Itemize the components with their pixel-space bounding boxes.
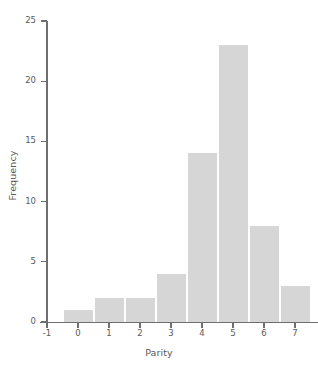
y-tick-mark [41, 81, 47, 82]
x-tick-label: 6 [252, 328, 276, 338]
x-tick-label: 4 [190, 328, 214, 338]
y-axis-line [46, 21, 47, 322]
histogram-chart: Histogram of Parity 0510152025 -10123456… [0, 0, 318, 366]
y-axis-title: Frequency [7, 131, 18, 221]
y-tick-mark [41, 141, 47, 142]
histogram-bar [156, 274, 187, 322]
y-tick-label: 25 [10, 16, 36, 25]
histogram-bar [125, 298, 156, 322]
x-axis-title: Parity [0, 347, 318, 358]
histogram-bar [94, 298, 125, 322]
histogram-bar [249, 226, 280, 322]
y-tick-mark [41, 261, 47, 262]
histogram-bar [187, 153, 218, 322]
y-tick-label: 20 [10, 76, 36, 85]
histogram-bar [218, 45, 249, 322]
y-tick-label: 0 [10, 317, 36, 326]
x-axis-line [40, 322, 318, 323]
x-tick-label: 1 [97, 328, 121, 338]
x-tick-label: 7 [283, 328, 307, 338]
x-tick-label: 2 [128, 328, 152, 338]
y-tick-label: 5 [10, 257, 36, 266]
histogram-bar [63, 310, 94, 322]
plot-area: 0510152025 -101234567 Frequency Parity [0, 0, 318, 366]
y-tick-mark [41, 201, 47, 202]
x-tick-label: 3 [159, 328, 183, 338]
histogram-bar [280, 286, 311, 322]
x-tick-label: 5 [221, 328, 245, 338]
y-tick-mark [41, 20, 47, 21]
x-tick-label: 0 [66, 328, 90, 338]
x-tick-label: -1 [35, 328, 59, 338]
